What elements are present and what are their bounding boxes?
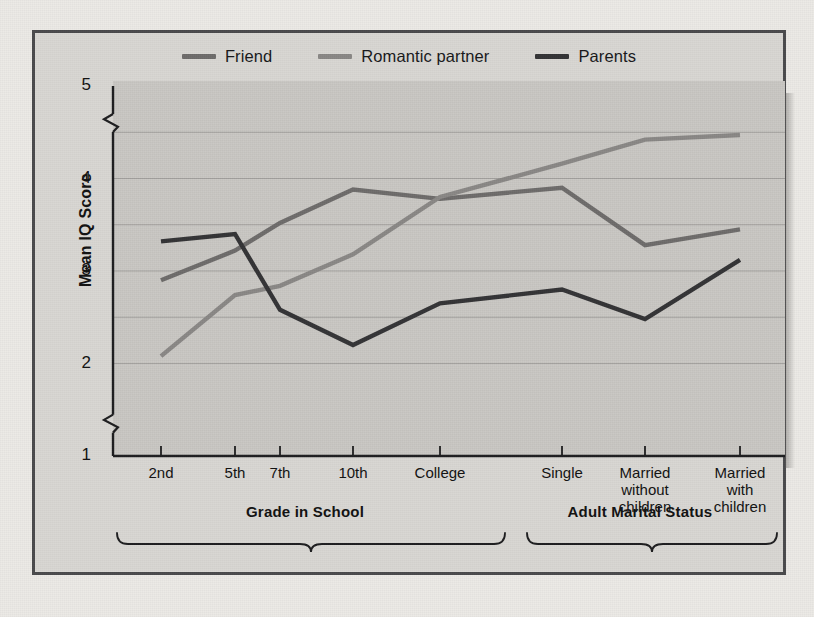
legend-label-romantic-partner: Romantic partner [361,47,489,66]
brace-adult-marital-status [527,533,777,552]
x-tick-label-3: 10th [307,465,399,482]
legend-swatch-friend [182,54,216,59]
chart-legend: Friend Romantic partner Parents [35,47,783,66]
legend-label-parents: Parents [578,47,636,66]
data-series [161,135,740,356]
axis-ticks [161,446,740,456]
y-tick-1: 1 [65,445,91,465]
legend-item-romantic-partner: Romantic partner [318,47,489,66]
y-tick-5: 5 [65,75,91,95]
y-axis-break-lower [104,415,118,433]
y-axis-tick-labels: 54321 [57,33,91,578]
legend-item-parents: Parents [535,47,636,66]
grid-lines [113,132,785,363]
series-line-parents [161,234,740,345]
group-label-adult: Adult Marital Status [505,503,775,520]
x-tick-label-4: College [394,465,486,482]
legend-label-friend: Friend [225,47,272,66]
x-tick-label-5: Single [516,465,608,482]
figure-frame: Friend Romantic partner Parents Mean IQ … [32,30,786,575]
category-braces [117,533,777,552]
group-label-school: Grade in School [95,503,515,520]
y-tick-3: 3 [65,260,91,280]
brace-grade-in-school [117,533,505,552]
legend-item-friend: Friend [182,47,272,66]
series-line-friend [161,188,740,281]
y-axis-break-upper [104,114,118,132]
y-tick-4: 4 [65,168,91,188]
legend-swatch-parents [535,54,569,59]
y-tick-2: 2 [65,353,91,373]
legend-swatch-romantic-partner [318,54,352,59]
